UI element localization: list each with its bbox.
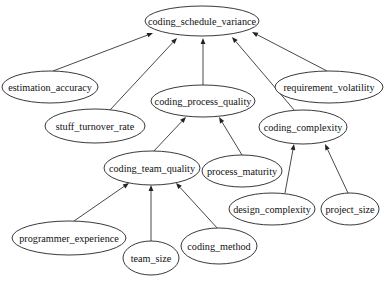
edge-line <box>257 35 327 71</box>
node-label: design_complexity <box>233 204 311 215</box>
node-design-complexity: design_complexity <box>229 193 315 225</box>
node-coding-team-quality: coding_team_quality <box>104 151 200 185</box>
edge-design_complexity-to-coding_complexity <box>285 144 295 193</box>
edge-coding_method-to-coding_team_quality <box>176 183 219 230</box>
edge-process_maturity-to-coding_process_quality <box>219 117 242 155</box>
node-label: coding_process_quality <box>155 96 253 107</box>
node-requirement-volatility: requirement_volatility <box>275 71 383 103</box>
node-coding-method: coding_method <box>181 228 257 264</box>
edge-programmer_experience-to-coding_team_quality <box>74 183 129 221</box>
node-label: estimation_accuracy <box>8 82 93 93</box>
node-label: process_maturity <box>207 166 278 177</box>
node-estimation-accuracy: estimation_accuracy <box>2 71 98 103</box>
arrowhead-icon <box>201 38 206 44</box>
edge-line <box>222 122 242 155</box>
arrowhead-icon <box>291 144 296 150</box>
node-label: project_size <box>325 204 375 215</box>
nodes-group: coding_schedule_varianceestimation_accur… <box>2 6 383 275</box>
edge-coding_process_quality-to-coding_schedule_variance <box>201 38 206 85</box>
edge-project_size-to-coding_complexity <box>325 144 348 193</box>
node-project-size: project_size <box>321 193 379 225</box>
node-programmer-experience: programmer_experience <box>12 221 126 255</box>
node-label: programmer_experience <box>19 233 119 244</box>
node-stuff-turnover-rate: stuff_turnover_rate <box>45 109 145 143</box>
arrowhead-icon <box>252 32 258 37</box>
arrowhead-icon <box>123 183 129 188</box>
arrowhead-icon <box>149 185 154 191</box>
edge-line <box>153 121 182 152</box>
edge-line <box>74 186 124 221</box>
node-coding-complexity: coding_complexity <box>259 110 347 144</box>
edge-coding_team_quality-to-coding_process_quality <box>153 117 186 152</box>
edge-team_size-to-coding_team_quality <box>149 185 154 241</box>
edge-estimation_accuracy-to-coding_schedule_variance <box>53 33 153 71</box>
arrowhead-icon <box>147 33 153 37</box>
node-label: stuff_turnover_rate <box>56 121 135 132</box>
node-label: coding_schedule_variance <box>148 16 257 27</box>
edge-line <box>180 187 219 230</box>
node-coding-process-quality: coding_process_quality <box>151 85 255 117</box>
edge-line <box>285 150 293 193</box>
edge-line <box>53 35 147 71</box>
node-team-size: team_size <box>123 241 179 275</box>
node-label: requirement_volatility <box>283 82 375 93</box>
node-label: coding_complexity <box>264 122 344 133</box>
node-label: team_size <box>131 253 172 264</box>
edge-requirement_volatility-to-coding_schedule_variance <box>252 32 327 71</box>
node-coding-schedule-variance: coding_schedule_variance <box>145 6 259 36</box>
causal-diagram: coding_schedule_varianceestimation_accur… <box>0 0 385 289</box>
arrowhead-icon <box>219 117 224 123</box>
edge-line <box>328 149 348 193</box>
node-process-maturity: process_maturity <box>202 155 282 187</box>
arrowhead-icon <box>325 144 330 150</box>
node-label: coding_method <box>187 241 250 252</box>
node-label: coding_team_quality <box>109 163 196 174</box>
